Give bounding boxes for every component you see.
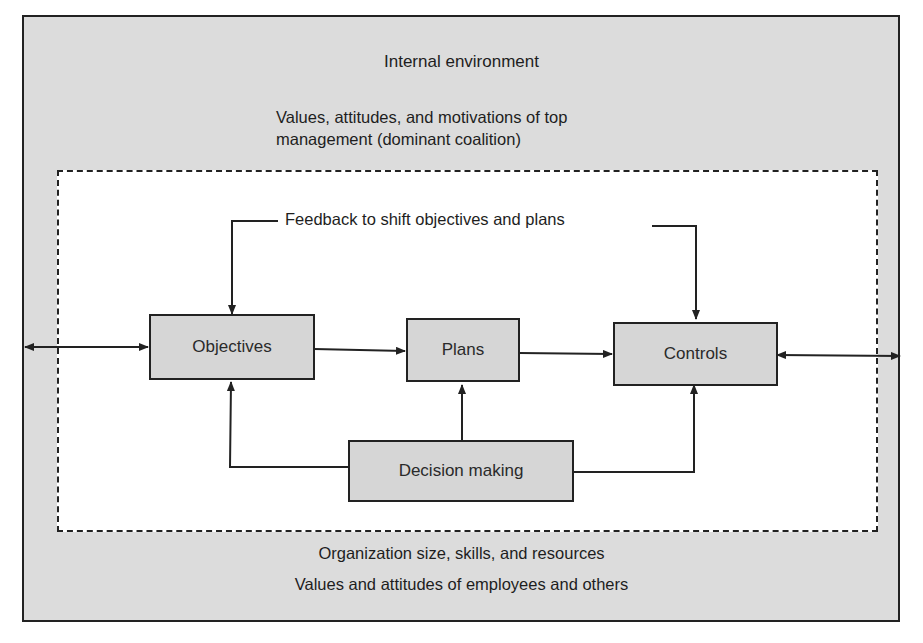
objectives-node: Objectives [149, 314, 315, 380]
bottom-context-line2: Values and attitudes of employees and ot… [0, 575, 923, 594]
bottom-context-line1: Organization size, skills, and resources [0, 544, 923, 563]
decision-making-node: Decision making [348, 440, 574, 502]
feedback-label: Feedback to shift objectives and plans [283, 210, 567, 229]
controls-node: Controls [613, 322, 778, 386]
plans-node: Plans [406, 318, 520, 382]
